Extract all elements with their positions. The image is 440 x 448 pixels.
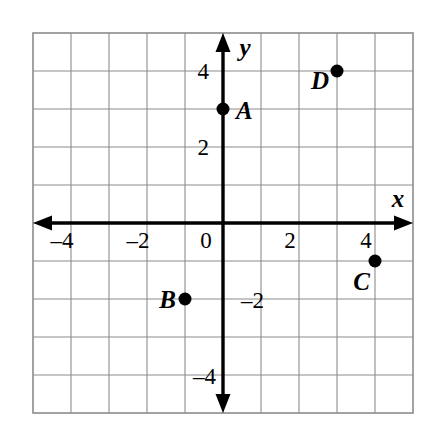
x-tick-label-4: 4 [360,228,372,253]
coordinate-plane-figure: –4 –2 0 2 4 4 2 –2 –4 x y A B C D [0,0,440,448]
x-tick-label-2: 2 [284,228,296,253]
x-tick-label-minus4: –4 [50,228,75,253]
y-tick-label-minus2: –2 [240,288,264,313]
data-point-label-b: B [158,286,176,313]
data-point-d [331,65,344,78]
y-axis-label: y [236,34,251,61]
data-point-label-c: C [353,268,370,295]
x-tick-label-zero: 0 [200,228,212,253]
data-point-label-a: A [234,97,253,124]
x-tick-label-minus2: –2 [126,228,150,253]
data-point-b [179,293,192,306]
data-point-c [369,255,382,268]
y-tick-label-minus4: –4 [192,364,217,389]
data-point-a [217,103,230,116]
coordinate-plane-svg: –4 –2 0 2 4 4 2 –2 –4 x y A B C D [0,0,440,448]
data-point-label-d: D [310,67,329,94]
x-axis-label: x [391,185,405,212]
y-tick-label-2: 2 [198,135,210,160]
y-tick-label-4: 4 [198,59,210,84]
